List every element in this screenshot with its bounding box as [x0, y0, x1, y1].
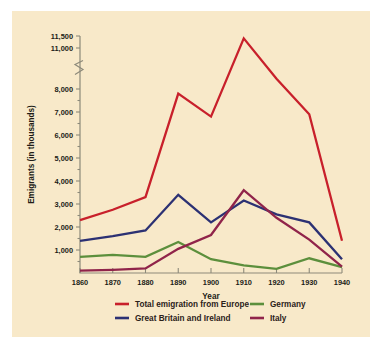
line-chart-svg: 1,0002,0003,0004,0005,0006,0007,0008,000… — [12, 11, 370, 337]
chart-axes — [80, 36, 342, 273]
y-axis-title: Emigrants (in thousands) — [27, 105, 36, 204]
y-tick-label: 2,000 — [55, 223, 74, 232]
y-axis-ticks: 1,0002,0003,0004,0005,0006,0007,0008,000… — [51, 32, 80, 262]
x-tick-label: 1860 — [72, 278, 88, 287]
x-tick-label: 1890 — [170, 278, 186, 287]
axis-break-zigzag — [75, 61, 83, 75]
x-tick-label: 1870 — [105, 278, 121, 287]
legend-label: Great Britain and Ireland — [135, 314, 231, 323]
legend-item[interactable]: Italy — [250, 314, 287, 323]
series-line-great-britain-and-ireland — [80, 195, 342, 259]
y-tick-label: 5,000 — [55, 154, 74, 163]
series-lines — [80, 38, 342, 270]
plot-area: 1,0002,0003,0004,0005,0006,0007,0008,000… — [12, 11, 370, 337]
y-tick-label: 1,000 — [55, 246, 74, 255]
x-tick-label: 1930 — [301, 278, 317, 287]
x-tick-label: 1920 — [268, 278, 284, 287]
axis-spine — [80, 36, 342, 273]
y-tick-label: 11,500 — [51, 32, 73, 41]
legend-item[interactable]: Total emigration from Europe — [115, 300, 249, 309]
legend-label: Italy — [270, 314, 287, 323]
x-tick-label: 1910 — [236, 278, 252, 287]
legend-label: Total emigration from Europe — [135, 300, 249, 309]
legend-item[interactable]: Germany — [250, 300, 306, 309]
y-tick-label: 6,000 — [55, 131, 74, 140]
y-tick-label: 7,000 — [55, 108, 74, 117]
x-tick-label: 1880 — [137, 278, 153, 287]
y-tick-label: 3,000 — [55, 200, 74, 209]
series-line-total-emigration-from-europe — [80, 38, 342, 240]
x-tick-label: 1940 — [334, 278, 350, 287]
chart-legend: Total emigration from EuropeGreat Britai… — [115, 300, 306, 323]
y-axis-break-icon — [75, 61, 83, 75]
x-tick-label: 1900 — [203, 278, 219, 287]
legend-item[interactable]: Great Britain and Ireland — [115, 314, 231, 323]
series-line-germany — [80, 242, 342, 269]
y-tick-label: 8,000 — [55, 85, 74, 94]
chart-figure: 1,0002,0003,0004,0005,0006,0007,0008,000… — [12, 11, 370, 337]
y-tick-label: 11,000 — [51, 44, 73, 53]
legend-label: Germany — [270, 300, 306, 309]
y-tick-label: 4,000 — [55, 177, 74, 186]
